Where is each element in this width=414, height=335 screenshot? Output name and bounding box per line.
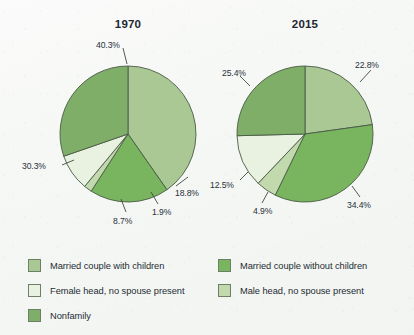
leader-line [123, 48, 127, 64]
legend-swatch-male-head [218, 284, 231, 297]
pie-label-1970-nonfamily: 30.3% [22, 161, 46, 171]
leader-line [360, 70, 371, 82]
pie-label-1970-male-head: 1.9% [152, 207, 171, 217]
legend-label-male-head: Male head, no spouse present [240, 286, 364, 296]
legend-item-married-with-children[interactable]: Married couple with children [28, 253, 218, 278]
leader-line [262, 192, 268, 203]
pie-slice[interactable] [237, 66, 305, 136]
legend-label-married-without-children: Married couple without children [240, 261, 367, 271]
pie-label-2015-married-without-children: 34.4% [347, 200, 371, 210]
legend-label-married-with-children: Married couple with children [50, 261, 164, 271]
pie-charts-svg [0, 0, 414, 260]
pie-label-1970-married-with-children: 40.3% [96, 40, 120, 50]
pie-label-2015-male-head: 4.9% [253, 206, 272, 216]
legend-column-right: Married couple without children Male hea… [218, 253, 414, 303]
legend-item-married-without-children[interactable]: Married couple without children [218, 253, 414, 278]
pie-label-1970-married-without-children: 18.8% [175, 188, 199, 198]
legend-label-female-head: Female head, no spouse present [50, 286, 184, 296]
legend-swatch-married-without-children [218, 259, 231, 272]
chart-page: 1970 2015 40.3% 18.8% 1.9% 8.7% 30.3% 22… [0, 0, 414, 335]
pie-chart-2015 [237, 66, 373, 202]
legend-item-female-head[interactable]: Female head, no spouse present [28, 278, 218, 303]
pie-slice[interactable] [305, 66, 372, 134]
chart-legend: Married couple with children Female head… [0, 253, 414, 335]
leader-line [240, 172, 248, 180]
legend-swatch-nonfamily [28, 309, 41, 322]
pie-label-2015-female-head: 12.5% [210, 180, 234, 190]
legend-swatch-married-with-children [28, 259, 41, 272]
legend-column-left: Married couple with children Female head… [28, 253, 218, 328]
legend-item-male-head[interactable]: Male head, no spouse present [218, 278, 414, 303]
legend-label-nonfamily: Nonfamily [50, 311, 91, 321]
leader-line [352, 186, 360, 197]
pie-label-2015-married-with-children: 22.8% [355, 60, 379, 70]
legend-item-nonfamily[interactable]: Nonfamily [28, 303, 218, 328]
pie-chart-1970 [60, 66, 196, 202]
pie-label-2015-nonfamily: 25.4% [222, 68, 246, 78]
pie-label-1970-female-head: 8.7% [113, 216, 132, 226]
legend-swatch-female-head [28, 284, 41, 297]
